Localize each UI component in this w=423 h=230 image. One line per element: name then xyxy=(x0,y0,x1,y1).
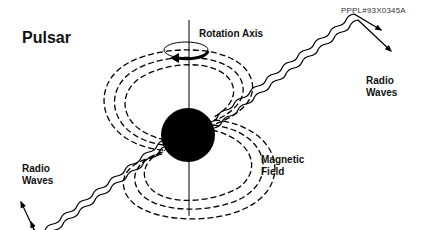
magnetic-field-label: Magnetic Field xyxy=(261,154,304,178)
label-line: Radio xyxy=(22,163,53,175)
radio-waves-label-right: Radio Waves xyxy=(366,75,397,99)
rotation-arrow-icon xyxy=(164,42,208,63)
radio-waves-label-left: Radio Waves xyxy=(22,163,53,187)
label-line: Magnetic xyxy=(261,154,304,166)
rotation-axis-label: Rotation Axis xyxy=(199,29,263,39)
label-line: Radio xyxy=(366,75,397,87)
label-line: Waves xyxy=(366,87,397,99)
neutron-star xyxy=(161,108,215,162)
diagram-title: Pulsar xyxy=(22,30,71,46)
pulsar-diagram: Pulsar PPPL#93X0345A Rotation Axis Radio… xyxy=(0,0,423,230)
reference-id: PPPL#93X0345A xyxy=(341,7,406,15)
label-line: Waves xyxy=(22,175,53,187)
label-line: Field xyxy=(261,166,304,178)
